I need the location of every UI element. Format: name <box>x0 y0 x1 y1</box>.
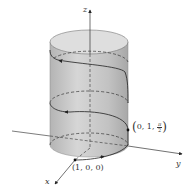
point-label-1-0-0: (1, 0, 0) <box>72 164 104 172</box>
z-axis-label: z <box>83 6 87 14</box>
y-axis-back <box>12 131 50 136</box>
point-1-0-0 <box>74 159 77 162</box>
y-axis-label: y <box>176 160 181 168</box>
point-label-0-1-pi2: (0, 1, π2) <box>132 121 167 133</box>
point-0-1-pi2 <box>127 129 130 132</box>
cylinder <box>50 30 128 157</box>
point-label-prefix: 0, 1, <box>137 122 155 131</box>
cylinder-top <box>50 30 128 54</box>
y-axis <box>128 146 182 154</box>
x-axis-label: x <box>45 178 50 186</box>
